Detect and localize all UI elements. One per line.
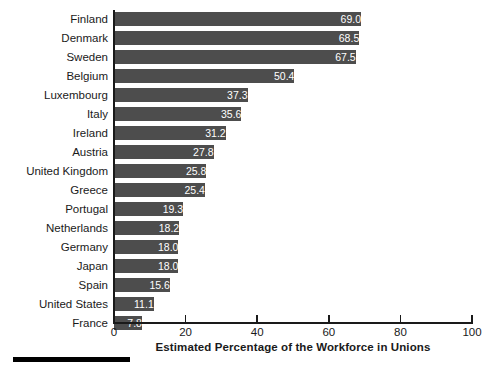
bar-track: 25.8 [114, 164, 498, 178]
bar-track: 67.5 [114, 50, 498, 64]
x-axis-tick-label: 0 [111, 326, 117, 338]
bar-row: Sweden67.5 [0, 50, 498, 64]
bar-row: Finland69.0 [0, 12, 498, 26]
footer-rule [13, 357, 130, 362]
bar-value-label: 69.0 [114, 12, 365, 26]
category-label: Denmark [0, 31, 108, 45]
category-label: Spain [0, 278, 108, 292]
x-axis-tick [113, 315, 115, 323]
category-label: Sweden [0, 50, 108, 64]
category-label: Austria [0, 145, 108, 159]
bar-row: United Kingdom25.8 [0, 164, 498, 178]
x-axis-title: Estimated Percentage of the Workforce in… [113, 341, 473, 353]
bar-track: 18.0 [114, 240, 498, 254]
category-label: Italy [0, 107, 108, 121]
bar-row: Luxembourg37.3 [0, 88, 498, 102]
union-membership-bar-chart: Finland69.0Denmark68.5Sweden67.5Belgium5… [0, 0, 498, 370]
x-axis-tick [185, 315, 187, 323]
bar-track: 50.4 [114, 69, 498, 83]
bar-row: Austria27.8 [0, 145, 498, 159]
category-label: Portugal [0, 202, 108, 216]
bar-row: United States11.1 [0, 297, 498, 311]
bar-track: 27.8 [114, 145, 498, 159]
bar-value-label: 68.5 [114, 31, 363, 45]
bar-value-label: 11.1 [114, 297, 158, 311]
bar-row: Portugal19.3 [0, 202, 498, 216]
bar-track: 11.1 [114, 297, 498, 311]
x-axis-tick-label: 60 [322, 326, 335, 338]
bar-row: Italy35.6 [0, 107, 498, 121]
category-label: Netherlands [0, 221, 108, 235]
category-label: Luxembourg [0, 88, 108, 102]
bar-track: 68.5 [114, 31, 498, 45]
bar-track: 19.3 [114, 202, 498, 216]
category-label: Germany [0, 240, 108, 254]
bar-row: Japan18.0 [0, 259, 498, 273]
category-label: United Kingdom [0, 164, 108, 178]
bar-row: Ireland31.2 [0, 126, 498, 140]
bar-value-label: 50.4 [114, 69, 298, 83]
bar-track: 18.2 [114, 221, 498, 235]
x-axis-tick [400, 315, 402, 323]
bar-row: Greece25.4 [0, 183, 498, 197]
bar-track: 69.0 [114, 12, 498, 26]
x-axis-tick [256, 315, 258, 323]
x-axis-tick-label: 20 [179, 326, 192, 338]
bar-rows-container: Finland69.0Denmark68.5Sweden67.5Belgium5… [0, 12, 498, 335]
bar-track: 31.2 [114, 126, 498, 140]
category-label: Belgium [0, 69, 108, 83]
bar-value-label: 35.6 [114, 107, 245, 121]
bar-value-label: 25.8 [114, 164, 210, 178]
bar-value-label: 18.0 [114, 259, 182, 273]
x-axis-tick-label: 100 [462, 326, 481, 338]
bar-row: Denmark68.5 [0, 31, 498, 45]
bar-value-label: 67.5 [114, 50, 360, 64]
bar-value-label: 18.2 [114, 221, 183, 235]
bar-track: 18.0 [114, 259, 498, 273]
bar-track: 35.6 [114, 107, 498, 121]
bar-value-label: 15.6 [114, 278, 174, 292]
category-label: Finland [0, 12, 108, 26]
bar-track: 15.6 [114, 278, 498, 292]
category-label: France [0, 316, 108, 330]
bar-row: Netherlands18.2 [0, 221, 498, 235]
bar-row: Belgium50.4 [0, 69, 498, 83]
x-axis-tick-label: 80 [394, 326, 407, 338]
bar-value-label: 37.3 [114, 88, 252, 102]
bar-track: 25.4 [114, 183, 498, 197]
x-axis-line [113, 322, 473, 324]
bar-row: Spain15.6 [0, 278, 498, 292]
category-label: Ireland [0, 126, 108, 140]
x-axis-tick-label: 40 [251, 326, 264, 338]
x-axis-tick [471, 315, 473, 323]
bar-row: Germany18.0 [0, 240, 498, 254]
bar-value-label: 27.8 [114, 145, 218, 159]
category-label: Greece [0, 183, 108, 197]
bar-value-label: 19.3 [114, 202, 187, 216]
category-label: Japan [0, 259, 108, 273]
category-label: United States [0, 297, 108, 311]
y-axis-line [113, 10, 115, 323]
x-axis-tick [328, 315, 330, 323]
bar-value-label: 31.2 [114, 126, 230, 140]
bar-value-label: 18.0 [114, 240, 182, 254]
bar-track: 37.3 [114, 88, 498, 102]
bar-value-label: 25.4 [114, 183, 209, 197]
